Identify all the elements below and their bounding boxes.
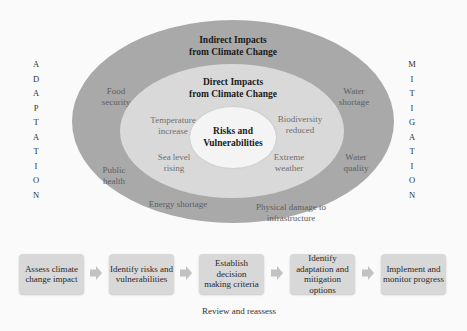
middle-item-extreme-weather: Extreme weather	[266, 152, 312, 174]
item-line: security	[96, 97, 136, 108]
step-assess-climate-impact: Assess climatechange impact	[19, 254, 84, 294]
side-label-letter: A	[29, 130, 43, 145]
item-line: Water	[334, 86, 374, 97]
step-line: change impact	[25, 274, 78, 285]
side-label-letter: T	[405, 144, 419, 159]
side-label-letter: I	[405, 159, 419, 174]
step-identify-options: Identifyadaptation andmitigation options	[290, 254, 355, 294]
step-line: Identify risks and	[110, 264, 173, 275]
side-label-letter: A	[29, 57, 43, 72]
side-label-letter: M	[405, 57, 419, 72]
side-label-letter: I	[29, 159, 43, 174]
outer-item-physical-damage: Physical damage to infrastructure	[250, 202, 332, 224]
arrow-right-icon	[271, 266, 283, 280]
title-line: from Climate Change	[180, 88, 286, 100]
mitigation-label: MITIGATION	[405, 57, 419, 202]
side-label-letter: G	[405, 115, 419, 130]
item-line: Water	[336, 152, 376, 163]
step-line: adaptation and	[290, 264, 355, 275]
step-line: Identify	[290, 253, 355, 264]
title-line: Vulnerabilities	[190, 137, 276, 149]
item-line: Biodiversity	[274, 114, 326, 125]
outer-item-energy-shortage: Energy shortage	[138, 199, 218, 210]
item-line: reduced	[274, 125, 326, 136]
side-label-letter: T	[29, 144, 43, 159]
item-line: Food	[96, 86, 136, 97]
item-line: Energy shortage	[138, 199, 218, 210]
side-label-letter: I	[405, 101, 419, 116]
item-line: Sea level	[153, 152, 195, 163]
item-line: health	[94, 176, 134, 187]
side-label-letter: N	[405, 188, 419, 203]
title-line: Risks and	[190, 125, 276, 137]
step-implement-monitor: Implement andmonitor progress	[381, 254, 446, 294]
item-line: Public	[94, 165, 134, 176]
side-label-letter: I	[405, 72, 419, 87]
arrow-right-icon	[362, 266, 374, 280]
title-line: from Climate Change	[170, 46, 296, 58]
review-reassess-label: Review and reassess	[202, 306, 276, 316]
step-line: vulnerabilities	[110, 274, 173, 285]
step-line: Implement and	[383, 264, 444, 275]
step-line: Establish decision	[199, 258, 264, 279]
outer-item-water-quality: Water quality	[336, 152, 376, 174]
step-line: mitigation options	[290, 274, 355, 295]
step-line: monitor progress	[383, 274, 444, 285]
adaptation-label: ADAPTATION	[29, 57, 43, 202]
side-label-letter: O	[405, 173, 419, 188]
item-line: Extreme	[266, 152, 312, 163]
risks-vulnerabilities-title: Risks and Vulnerabilities	[190, 125, 276, 149]
item-line: shortage	[334, 97, 374, 108]
step-establish-criteria: Establish decisionmaking criteria	[199, 254, 264, 294]
item-line: weather	[266, 163, 312, 174]
item-line: infrastructure	[250, 213, 332, 224]
indirect-impacts-title: Indirect Impacts from Climate Change	[170, 34, 296, 58]
middle-item-sea-level-rising: Sea level rising	[153, 152, 195, 174]
item-line: quality	[336, 163, 376, 174]
arrow-right-icon	[90, 266, 102, 280]
title-line: Indirect Impacts	[170, 34, 296, 46]
item-line: Physical damage to	[250, 202, 332, 213]
item-line: rising	[153, 163, 195, 174]
side-label-letter: T	[405, 86, 419, 101]
outer-item-food-security: Food security	[96, 86, 136, 108]
outer-item-public-health: Public health	[94, 165, 134, 187]
title-line: Direct Impacts	[180, 76, 286, 88]
direct-impacts-title: Direct Impacts from Climate Change	[180, 76, 286, 100]
step-line: making criteria	[199, 279, 264, 290]
side-label-letter: O	[29, 173, 43, 188]
side-label-letter: A	[405, 130, 419, 145]
arrow-right-icon	[180, 266, 192, 280]
side-label-letter: A	[29, 86, 43, 101]
side-label-letter: T	[29, 115, 43, 130]
middle-item-biodiversity-reduced: Biodiversity reduced	[274, 114, 326, 136]
side-label-letter: N	[29, 188, 43, 203]
step-identify-risks: Identify risks andvulnerabilities	[109, 254, 174, 294]
side-label-letter: P	[29, 101, 43, 116]
outer-item-water-shortage: Water shortage	[334, 86, 374, 108]
step-line: Assess climate	[25, 264, 78, 275]
side-label-letter: D	[29, 72, 43, 87]
